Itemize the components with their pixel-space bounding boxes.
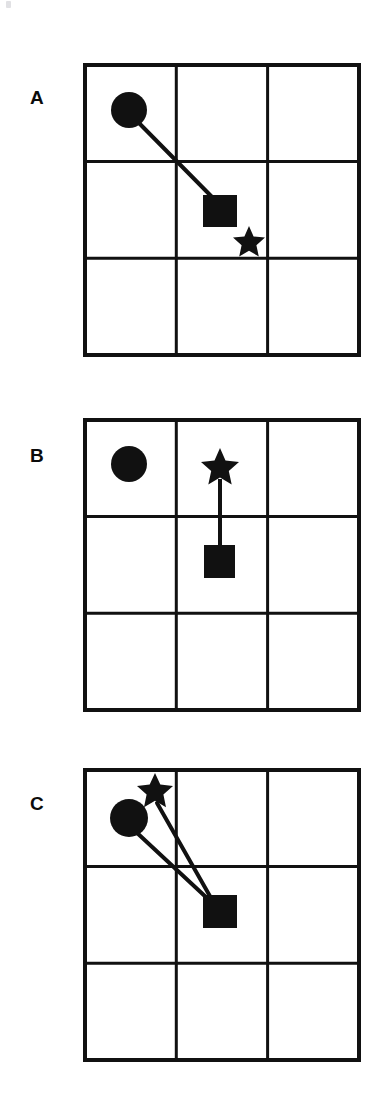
connector-star-square	[157, 803, 211, 898]
connector-circle-square	[135, 831, 208, 899]
star-marker	[233, 226, 265, 257]
panel-b-diagram	[83, 418, 361, 712]
panel-b-label: B	[30, 446, 44, 465]
panel-a-diagram	[83, 63, 361, 357]
star-marker	[201, 448, 239, 484]
circle-marker	[111, 92, 147, 128]
panel-c-diagram	[83, 768, 361, 1062]
scan-artifact-speck	[6, 1, 11, 8]
panel-a-label: A	[30, 88, 44, 107]
star-marker	[137, 773, 173, 807]
square-marker	[203, 195, 237, 227]
figure-root: A B	[0, 0, 383, 1107]
panel-c-label: C	[30, 794, 44, 813]
circle-marker	[110, 799, 148, 837]
square-marker	[204, 545, 235, 578]
circle-marker	[111, 446, 147, 482]
square-marker	[203, 895, 237, 928]
